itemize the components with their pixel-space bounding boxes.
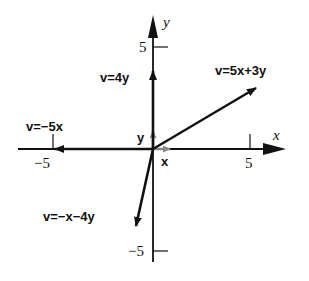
vector-neg5x-label: v=−5x: [26, 119, 64, 134]
vector-5x-3y-label: v=5x+3y: [215, 63, 267, 78]
vector-negx-neg4y: [136, 149, 153, 226]
tick-label-y-neg5: −5: [128, 243, 144, 259]
tick-label-y-5: 5: [139, 39, 147, 55]
y-axis-label: y: [161, 14, 170, 30]
x-axis-label: x: [272, 127, 280, 143]
basis-y-label: y: [137, 130, 145, 145]
vector-diagram: 5 −5 5 −5 x y y x v=4y v=5x+3y v=−5x v=−…: [0, 0, 309, 281]
basis-x-label: x: [161, 154, 169, 169]
tick-label-x-neg5: −5: [34, 155, 50, 171]
vector-4y-label: v=4y: [100, 70, 130, 85]
vector-negx-neg4y-label: v=−x−4y: [43, 209, 95, 224]
vector-5x-3y: [153, 88, 256, 149]
x-axis-arrow-icon: [263, 143, 286, 155]
tick-label-x-5: 5: [245, 155, 253, 171]
y-axis-arrow-icon: [148, 15, 158, 38]
